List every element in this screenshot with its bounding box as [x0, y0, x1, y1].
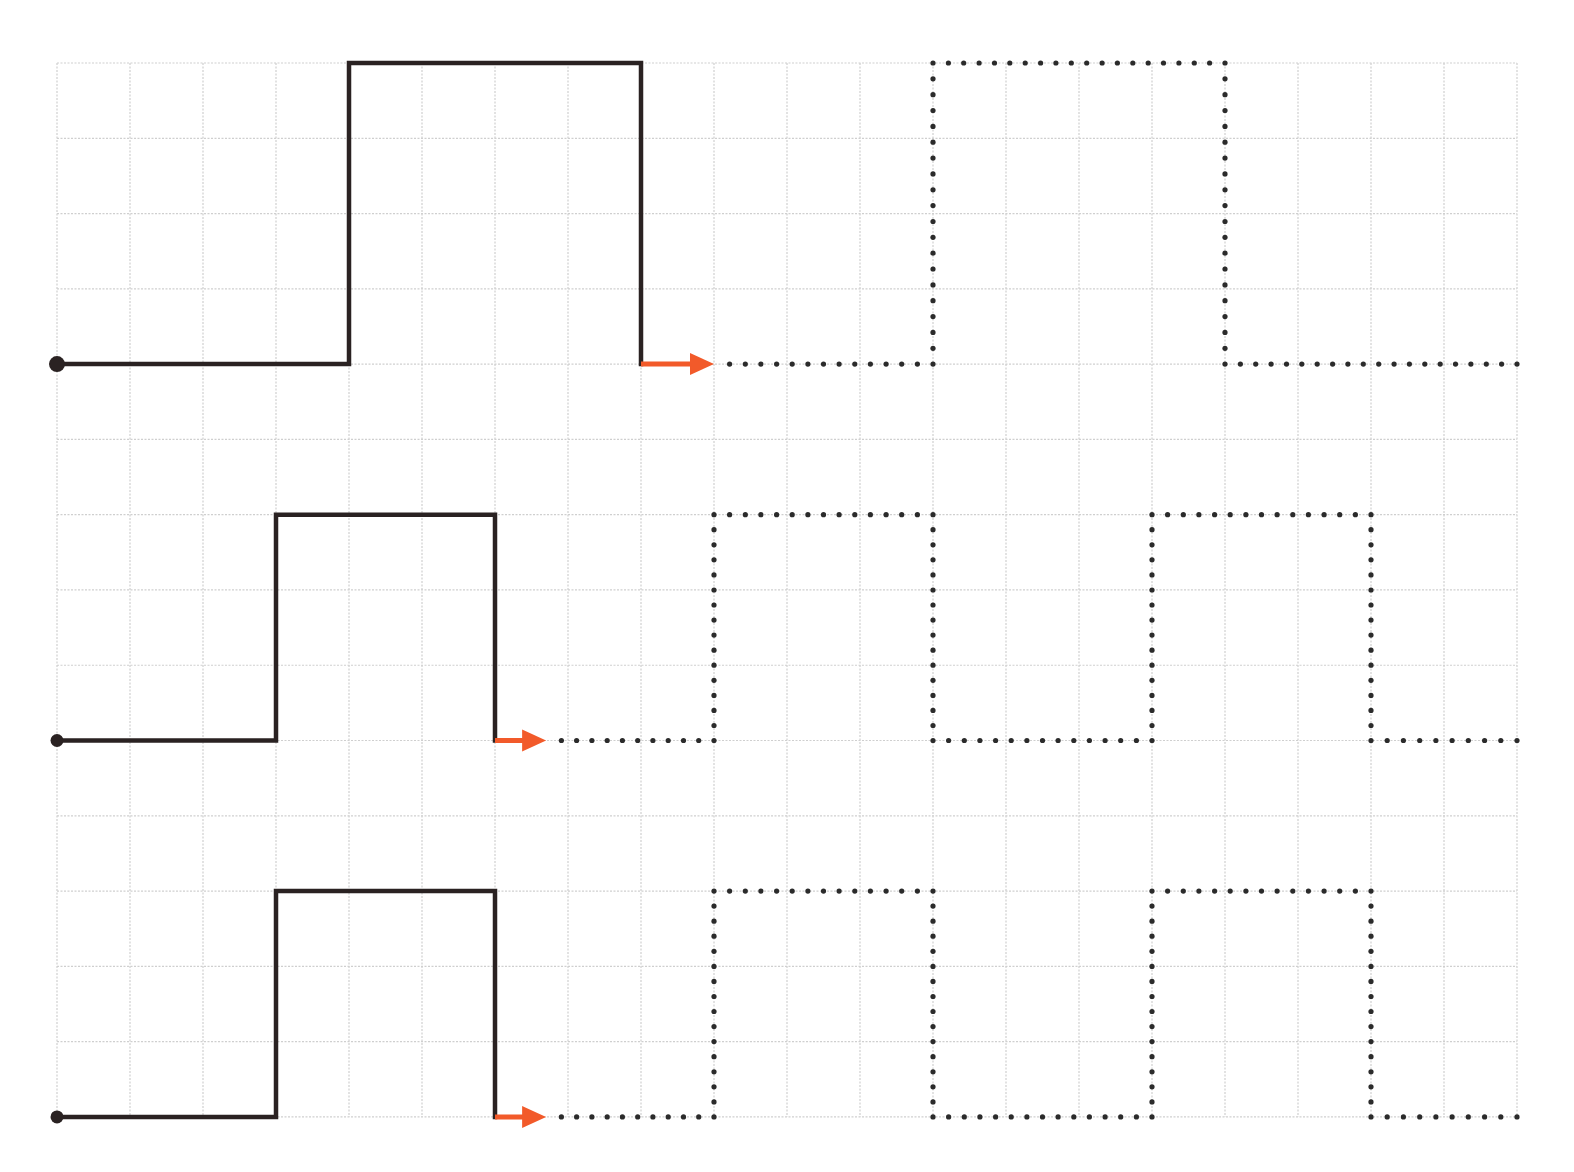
trace-dot [1368, 1009, 1373, 1014]
trace-dot [1368, 648, 1373, 653]
trace-dot [1450, 738, 1455, 743]
trace-dot [1368, 633, 1373, 638]
trace-dot [1361, 362, 1366, 367]
trace-dot [1306, 889, 1311, 894]
trace-dot [620, 738, 625, 743]
trace-dot [1149, 527, 1154, 532]
trace-dot [1149, 708, 1154, 713]
trace-dot [899, 512, 904, 517]
trace-dot [1259, 889, 1264, 894]
trace-dot [711, 934, 716, 939]
trace-dot [930, 979, 935, 984]
trace-dot [1222, 282, 1227, 287]
trace-dot [1368, 994, 1373, 999]
start-point-icon [49, 356, 65, 372]
trace-dot [711, 1024, 716, 1029]
trace-dot [1368, 1054, 1373, 1059]
trace-dot [711, 648, 716, 653]
trace-dot [915, 512, 920, 517]
trace-dot [992, 60, 997, 65]
trace-dot [1368, 1099, 1373, 1104]
trace-dot [1368, 708, 1373, 713]
trace-dot [930, 1099, 935, 1104]
trace-dot [1368, 919, 1373, 924]
trace-dot [681, 1114, 686, 1119]
pattern-3-medium [51, 889, 1520, 1128]
start-point-icon [51, 734, 64, 747]
trace-dot [711, 678, 716, 683]
trace-dot [930, 203, 935, 208]
trace-dot [711, 949, 716, 954]
trace-dot [805, 889, 810, 894]
trace-dot [1368, 979, 1373, 984]
trace-dot [821, 889, 826, 894]
trace-dot [1165, 889, 1170, 894]
trace-dot [1498, 1114, 1503, 1119]
trace-dot [1149, 1069, 1154, 1074]
trace-dot [1149, 618, 1154, 623]
trace-dot [1433, 738, 1438, 743]
trace-dot [899, 362, 904, 367]
trace-dot [930, 587, 935, 592]
trace-dot [1024, 1114, 1029, 1119]
trace-dot [758, 362, 763, 367]
trace-dot [711, 1099, 716, 1104]
trace-dot [711, 708, 716, 713]
trace-dot [1149, 949, 1154, 954]
trace-dot [1422, 362, 1427, 367]
pattern-2-medium [51, 512, 1520, 751]
trace-dot [1103, 1114, 1108, 1119]
trace-dot [1368, 1039, 1373, 1044]
trace-dot [1368, 572, 1373, 577]
trace-dot [930, 219, 935, 224]
trace-dot [930, 187, 935, 192]
dotted-trace-guide[interactable] [559, 889, 1520, 1120]
trace-dot [930, 527, 935, 532]
trace-dot [1222, 92, 1227, 97]
trace-dot [727, 512, 732, 517]
trace-dot [899, 889, 904, 894]
trace-dot [1149, 587, 1154, 592]
trace-dot [1368, 904, 1373, 909]
trace-dot [1253, 362, 1258, 367]
trace-dot [930, 282, 935, 287]
trace-dot [620, 1114, 625, 1119]
trace-dot [711, 738, 716, 743]
trace-dot [711, 572, 716, 577]
trace-dot [1040, 738, 1045, 743]
trace-dot [1322, 889, 1327, 894]
trace-dot [1149, 512, 1154, 517]
trace-dot [946, 1114, 951, 1119]
trace-dot [1207, 60, 1212, 65]
trace-dot [1149, 572, 1154, 577]
trace-dot [1330, 362, 1335, 367]
trace-dot [1368, 1069, 1373, 1074]
trace-dot [930, 235, 935, 240]
trace-dot [993, 1114, 998, 1119]
dotted-trace-guide[interactable] [559, 512, 1520, 743]
trace-dot [915, 889, 920, 894]
trace-dot [1196, 889, 1201, 894]
trace-dot [758, 512, 763, 517]
trace-dot [1466, 1114, 1471, 1119]
tracing-worksheet [0, 0, 1574, 1172]
trace-dot [1368, 949, 1373, 954]
trace-dot [930, 1039, 935, 1044]
trace-dot [1498, 738, 1503, 743]
trace-dot [681, 738, 686, 743]
trace-dot [868, 362, 873, 367]
trace-dot [1149, 602, 1154, 607]
trace-dot [1222, 76, 1227, 81]
trace-dot [1053, 60, 1058, 65]
trace-dot [1368, 618, 1373, 623]
trace-dot [930, 633, 935, 638]
trace-dot [1275, 889, 1280, 894]
trace-dot [1417, 1114, 1422, 1119]
trace-dot [930, 76, 935, 81]
trace-dot [711, 964, 716, 969]
trace-dot [930, 1069, 935, 1074]
trace-dot [711, 693, 716, 698]
trace-dot [1222, 140, 1227, 145]
trace-dot [821, 512, 826, 517]
trace-dot [743, 512, 748, 517]
